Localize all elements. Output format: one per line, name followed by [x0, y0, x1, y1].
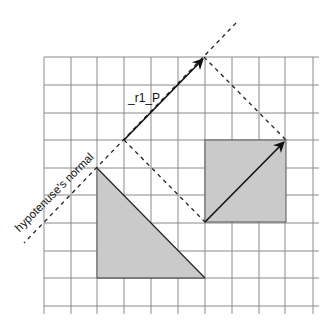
vector-label: _r1_P	[127, 91, 160, 105]
normal-label: hypotenuse's normal	[13, 151, 96, 234]
diagram-canvas: _r1_P hypotenuse's normal	[0, 0, 334, 330]
projection-line-top	[204, 57, 286, 140]
